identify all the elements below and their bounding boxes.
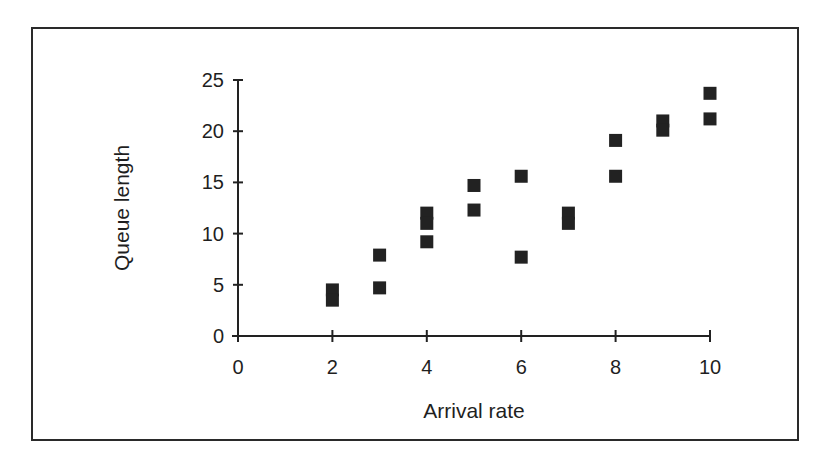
data-point — [609, 170, 622, 183]
x-tick-label: 8 — [610, 356, 621, 378]
y-tick-label: 5 — [213, 274, 224, 296]
data-point — [468, 204, 481, 217]
data-point — [609, 134, 622, 147]
x-tick-label: 4 — [421, 356, 432, 378]
data-point — [373, 249, 386, 262]
axes: 05101520250246810 — [202, 69, 721, 378]
data-point — [562, 217, 575, 230]
data-point — [704, 112, 717, 125]
y-axis-title: Queue length — [110, 145, 133, 271]
data-point — [515, 170, 528, 183]
data-point — [515, 251, 528, 264]
data-point — [468, 179, 481, 192]
data-point — [704, 87, 717, 100]
x-tick-label: 10 — [699, 356, 721, 378]
data-point — [656, 124, 669, 137]
y-tick-label: 25 — [202, 69, 224, 91]
data-point — [420, 235, 433, 248]
y-tick-label: 0 — [213, 325, 224, 347]
data-points — [326, 87, 717, 307]
y-tick-label: 20 — [202, 120, 224, 142]
scatter-chart: 05101520250246810 Arrival rate Queue len… — [0, 0, 833, 466]
data-point — [420, 217, 433, 230]
y-tick-label: 15 — [202, 171, 224, 193]
x-tick-label: 6 — [516, 356, 527, 378]
data-point — [326, 294, 339, 307]
x-axis-title: Arrival rate — [423, 399, 525, 422]
data-point — [373, 281, 386, 294]
y-tick-label: 10 — [202, 223, 224, 245]
x-tick-label: 0 — [232, 356, 243, 378]
x-tick-label: 2 — [327, 356, 338, 378]
